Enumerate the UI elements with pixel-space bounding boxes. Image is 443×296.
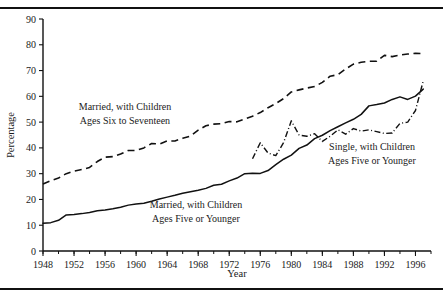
y-tick-label-70: 70 — [26, 65, 36, 76]
x-tick-label-1952: 1952 — [64, 259, 84, 270]
y-tick-label-90: 90 — [26, 14, 36, 25]
annotation-married-five-or-younger-line1: Married, with Children — [150, 199, 242, 210]
y-tick-label-50: 50 — [26, 117, 36, 128]
annotation-married-six-to-seventeen-line2: Ages Six to Seventeen — [80, 115, 170, 126]
x-axis-title: Year — [227, 268, 247, 279]
y-axis-title: Percentage — [5, 112, 16, 158]
y-tick-label-40: 40 — [26, 142, 36, 153]
y-tick-label-30: 30 — [26, 168, 36, 179]
x-tick-label-1984: 1984 — [312, 259, 332, 270]
line-chart-plot: 0102030405060708090 19481952195619601964… — [0, 0, 443, 296]
x-tick-label-1976: 1976 — [250, 259, 270, 270]
x-tick-label-1964: 1964 — [157, 259, 177, 270]
annotation-married-six-to-seventeen-line1: Married, with Children — [79, 101, 171, 112]
x-tick-label-1988: 1988 — [343, 259, 363, 270]
y-tick-label-20: 20 — [26, 194, 36, 205]
x-tick-label-1992: 1992 — [374, 259, 394, 270]
y-tick-label-80: 80 — [26, 39, 36, 50]
annotation-married-five-or-younger-line2: Ages Five or Younger — [152, 213, 240, 224]
y-tick-label-0: 0 — [31, 246, 36, 257]
y-tick-label-60: 60 — [26, 91, 36, 102]
annotation-single-five-or-younger-line2: Ages Five or Younger — [328, 155, 416, 166]
x-tick-label-1996: 1996 — [405, 259, 425, 270]
x-tick-label-1980: 1980 — [281, 259, 301, 270]
x-tick-label-1960: 1960 — [126, 259, 146, 270]
x-tick-label-1956: 1956 — [95, 259, 115, 270]
y-axis-tick-labels: 0102030405060708090 — [26, 14, 36, 257]
chart-figure: 0102030405060708090 19481952195619601964… — [0, 0, 443, 296]
x-axis-ticks — [43, 251, 415, 256]
x-tick-label-1968: 1968 — [188, 259, 208, 270]
annotation-single-five-or-younger-line1: Single, with Children — [329, 141, 415, 152]
y-tick-label-10: 10 — [26, 220, 36, 231]
x-tick-label-1948: 1948 — [33, 259, 53, 270]
